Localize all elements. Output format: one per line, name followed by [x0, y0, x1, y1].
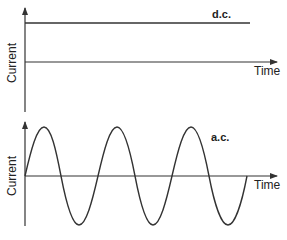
current-diagram — [0, 0, 287, 240]
dc-y-axis-label: Current — [5, 43, 19, 83]
ac-x-axis-label: Time — [254, 178, 280, 192]
ac-tag-label: a.c. — [211, 131, 229, 143]
ac-graph — [25, 122, 277, 226]
dc-x-axis-label: Time — [254, 64, 280, 78]
dc-tag-label: d.c. — [212, 8, 231, 20]
dc-graph — [25, 8, 277, 112]
ac-y-axis-label: Current — [5, 156, 19, 196]
